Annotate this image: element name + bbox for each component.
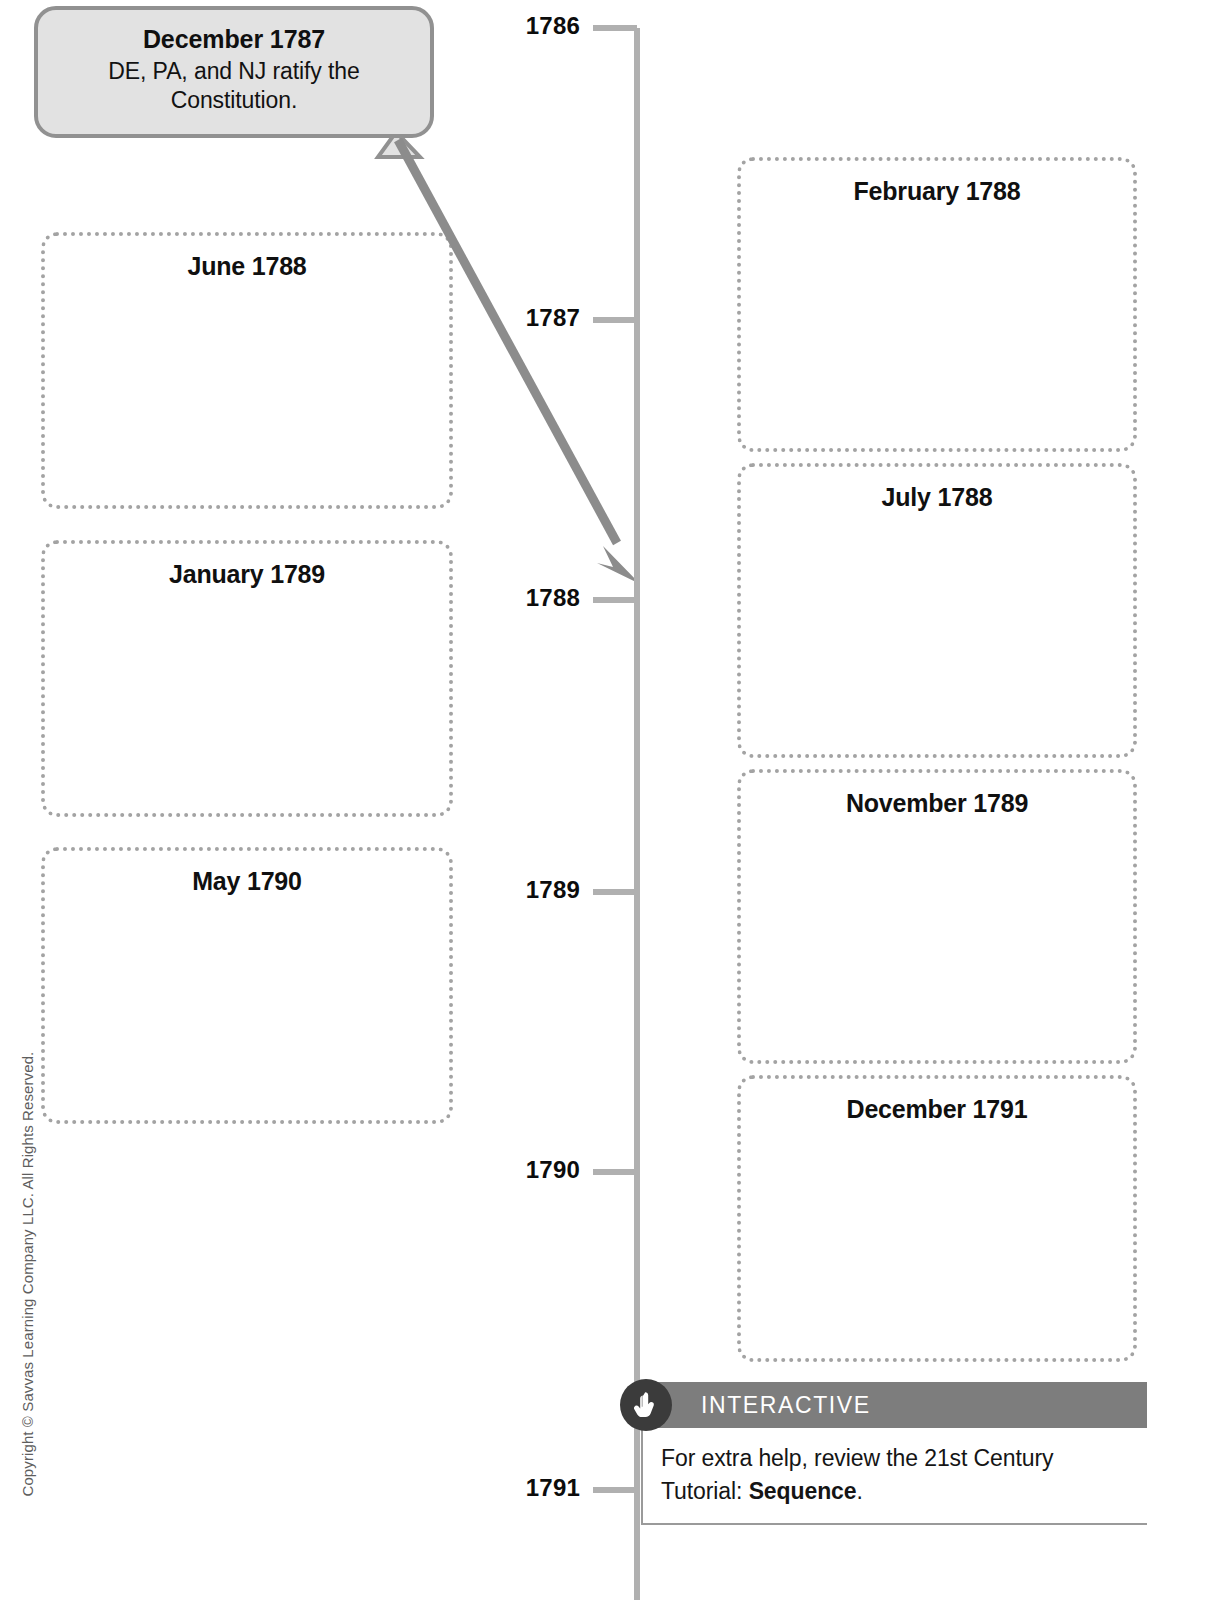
year-label-1786: 1786: [460, 12, 580, 40]
interactive-text-after: .: [856, 1478, 862, 1504]
timeline-ticks: [593, 28, 637, 1490]
answer-box-label: May 1790: [45, 867, 449, 896]
pointing-hand-icon: [620, 1379, 672, 1431]
answer-box-left-2[interactable]: January 1789: [41, 540, 453, 817]
answer-box-left-3[interactable]: May 1790: [41, 847, 453, 1124]
answer-box-right-4[interactable]: December 1791: [737, 1075, 1137, 1362]
year-label-1791: 1791: [460, 1474, 580, 1502]
interactive-body: For extra help, review the 21st Century …: [641, 1428, 1147, 1525]
interactive-header-bar: INTERACTIVE: [641, 1382, 1147, 1428]
answer-box-left-1[interactable]: June 1788: [41, 232, 453, 509]
answer-box-label: February 1788: [741, 177, 1133, 206]
year-label-1787: 1787: [460, 304, 580, 332]
callout-december-1787: December 1787 DE, PA, and NJ ratify the …: [34, 6, 434, 138]
answer-box-label: July 1788: [741, 483, 1133, 512]
answer-box-label: June 1788: [45, 252, 449, 281]
interactive-callout[interactable]: INTERACTIVE For extra help, review the 2…: [641, 1382, 1147, 1525]
year-label-1788: 1788: [460, 584, 580, 612]
answer-box-right-2[interactable]: July 1788: [737, 463, 1137, 758]
callout-body: DE, PA, and NJ ratify the Constitution.: [54, 57, 414, 116]
callout-title: December 1787: [143, 24, 325, 55]
interactive-text-bold: Sequence: [749, 1478, 857, 1504]
answer-box-right-1[interactable]: February 1788: [737, 157, 1137, 452]
timeline-worksheet: December 1787 DE, PA, and NJ ratify the …: [0, 0, 1208, 1618]
interactive-label: INTERACTIVE: [701, 1392, 871, 1419]
copyright-notice: Copyright © Savvas Learning Company LLC.…: [19, 1097, 36, 1497]
answer-box-label: November 1789: [741, 789, 1133, 818]
year-label-1789: 1789: [460, 876, 580, 904]
answer-box-label: January 1789: [45, 560, 449, 589]
year-label-1790: 1790: [460, 1156, 580, 1184]
answer-box-right-3[interactable]: November 1789: [737, 769, 1137, 1064]
interactive-text: For extra help, review the 21st Century …: [661, 1442, 1131, 1507]
answer-box-label: December 1791: [741, 1095, 1133, 1124]
